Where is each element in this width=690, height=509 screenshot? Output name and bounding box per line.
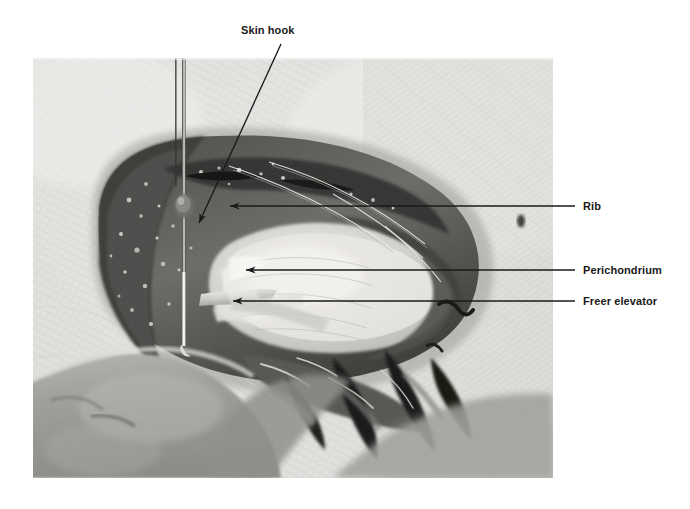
label-perichondrium: Perichondrium xyxy=(583,264,662,276)
label-rib: Rib xyxy=(583,200,601,212)
photograph-content xyxy=(33,58,553,478)
surgical-photograph xyxy=(33,58,553,478)
label-freer-elevator: Freer elevator xyxy=(583,295,657,307)
figure-root: Skin hook Rib Perichondrium Freer elevat… xyxy=(0,0,690,509)
label-skin-hook: Skin hook xyxy=(241,24,294,36)
